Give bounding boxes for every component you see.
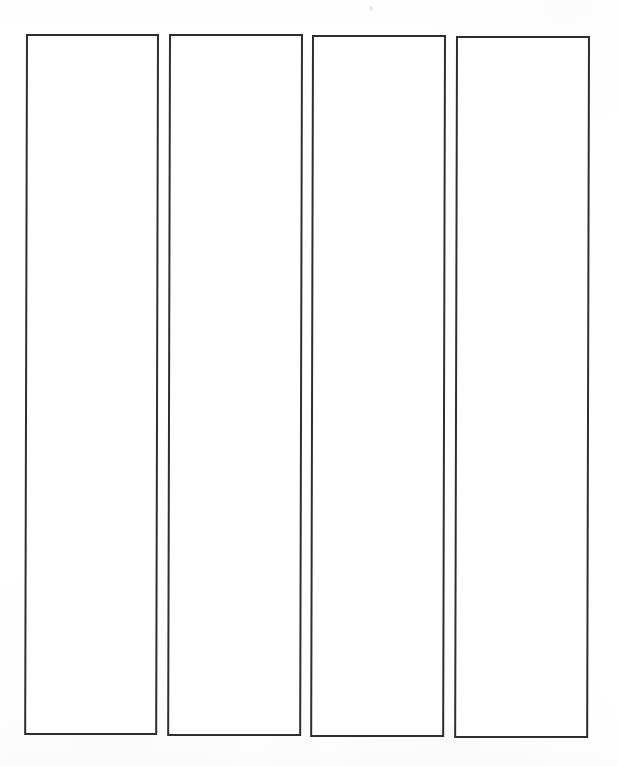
scanned-page: [0, 0, 618, 766]
column-box: [310, 35, 446, 737]
column-box: [454, 36, 590, 738]
column-box: [167, 34, 303, 736]
column-box: [24, 34, 159, 735]
scan-speck-artifact: [369, 6, 373, 11]
